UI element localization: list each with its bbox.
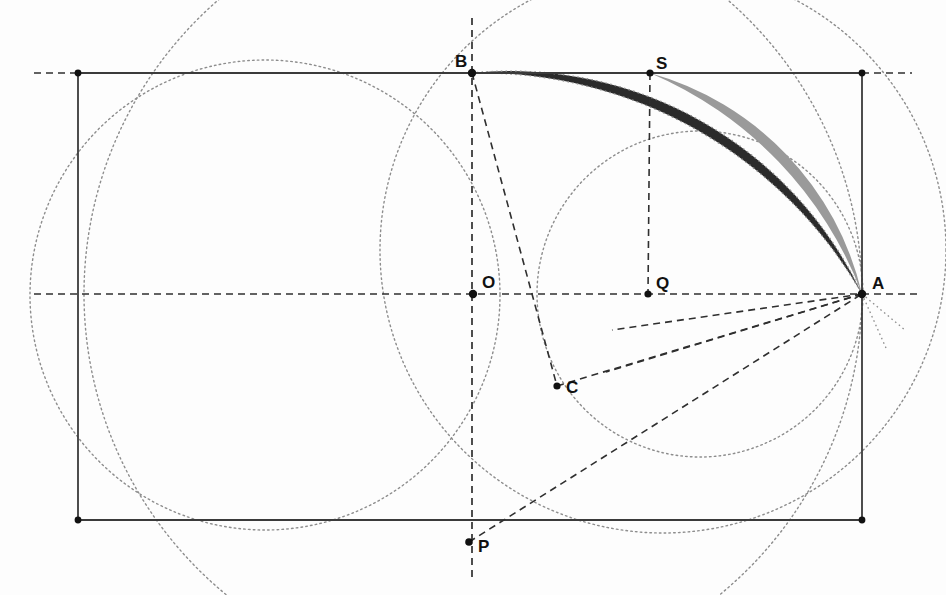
label-C: C xyxy=(566,378,578,397)
label-B: B xyxy=(455,52,467,71)
point-O-marker[interactable] xyxy=(469,290,477,298)
corner-top-right-marker xyxy=(859,70,866,77)
point-A-marker[interactable] xyxy=(858,290,866,298)
point-B-marker[interactable] xyxy=(468,69,476,77)
label-A: A xyxy=(872,274,884,293)
point-P-marker[interactable] xyxy=(465,538,473,546)
label-S: S xyxy=(656,54,667,73)
label-O: O xyxy=(482,273,495,292)
point-Q-marker[interactable] xyxy=(644,290,651,297)
label-Q: Q xyxy=(656,274,669,293)
corner-bottom-left-marker xyxy=(75,517,82,524)
figure-canvas: A B S O Q C P xyxy=(0,0,946,595)
label-P: P xyxy=(478,537,489,556)
geometry-figure: A B S O Q C P xyxy=(0,0,946,595)
point-C-marker[interactable] xyxy=(553,382,560,389)
corner-top-left-marker xyxy=(75,70,82,77)
corner-bottom-right-marker xyxy=(859,517,866,524)
point-S-marker[interactable] xyxy=(646,69,653,76)
